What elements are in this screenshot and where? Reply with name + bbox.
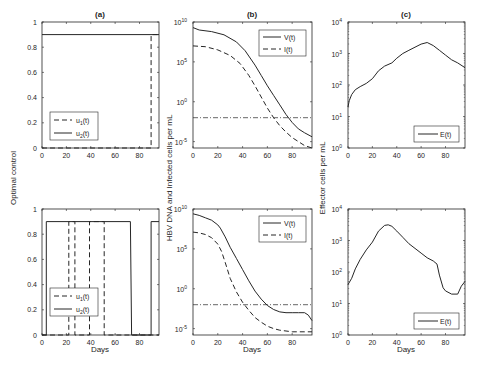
legend-label-E: E(t): [440, 131, 451, 139]
y-tick-label: 103: [331, 49, 342, 58]
x-tick-label: 60: [263, 339, 271, 346]
y-tick-label: 105: [176, 244, 187, 253]
panel-title-a: (a): [95, 10, 105, 19]
x-tick-label: 20: [368, 152, 376, 159]
x-tick-label: 40: [239, 152, 247, 159]
x-tick-label: 20: [214, 339, 222, 346]
y-tick-label: 0.8: [27, 231, 37, 238]
y-tick-label: 100: [176, 284, 187, 293]
xlabel-days-a: Days: [91, 345, 109, 354]
y-tick-label: 100: [176, 97, 187, 106]
ylabel-hbv-dna: HBV DNA and Infected cells per mL: [165, 114, 174, 241]
y-tick-label: 0.8: [27, 44, 37, 51]
y-tick-label: 0: [33, 332, 37, 339]
legend-a-bottom: u1(t) u2(t): [50, 288, 98, 316]
legend-b-top: V(t) I(t): [259, 30, 306, 56]
x-tick-label: 80: [442, 339, 450, 346]
legend-a-top: u1(t) u2(t): [50, 112, 98, 140]
x-tick-label: 80: [136, 339, 144, 346]
ylabel-optimal-control: Optimal control: [9, 151, 18, 205]
x-tick-label: 80: [136, 152, 144, 159]
x-tick-label: 20: [62, 152, 70, 159]
y-tick-label: 105: [176, 57, 187, 66]
y-tick-label: 101: [331, 299, 342, 308]
x-tick-label: 20: [62, 339, 70, 346]
legend-label-V: V(t): [284, 34, 295, 42]
legend-label-V: V(t): [284, 220, 295, 228]
xlabel-days-c: Days: [397, 345, 415, 354]
x-tick-label: 40: [393, 339, 401, 346]
y-tick-label: 1: [33, 19, 37, 26]
x-tick-label: 60: [417, 339, 425, 346]
x-tick-label: 0: [346, 339, 350, 346]
figure: (a) (b) (c) Optimal control HBV DNA and …: [0, 0, 485, 365]
x-tick-label: 60: [263, 152, 271, 159]
y-tick-label: 1: [33, 206, 37, 213]
legend-b-bottom: V(t) I(t): [259, 216, 306, 242]
x-tick-label: 60: [111, 152, 119, 159]
legend-label-E: E(t): [440, 318, 451, 326]
x-tick-label: 0: [191, 152, 195, 159]
x-tick-label: 0: [191, 339, 195, 346]
legend-label-I: I(t): [284, 46, 293, 54]
x-tick-label: 40: [87, 339, 95, 346]
y-tick-label: 1010: [174, 17, 188, 26]
legend-c-top: E(t): [414, 126, 459, 142]
y-tick-label: 0.6: [27, 69, 37, 76]
y-tick-label: 0.6: [27, 256, 37, 263]
y-tick-label: 100: [331, 330, 342, 339]
y-tick-label: 101: [331, 112, 342, 121]
panel-title-c: (c): [401, 10, 411, 19]
y-tick-label: 0.4: [27, 281, 37, 288]
axes-a-bottom: 02040608000.20.40.60.81: [27, 206, 159, 347]
x-tick-label: 80: [288, 152, 296, 159]
y-tick-label: 104: [331, 17, 342, 26]
y-tick-label: 0.2: [27, 306, 37, 313]
legend-c-bottom: E(t): [414, 313, 459, 329]
xlabel-days-b: Days: [243, 345, 261, 354]
y-tick-label: 100: [331, 143, 342, 152]
x-tick-label: 40: [239, 339, 247, 346]
ylabel-effector-cells: Effector cells per mL: [318, 141, 327, 214]
x-tick-label: 80: [288, 339, 296, 346]
y-tick-label: 10-5: [175, 137, 187, 146]
x-tick-label: 40: [87, 152, 95, 159]
x-tick-label: 20: [214, 152, 222, 159]
x-tick-label: 60: [111, 339, 119, 346]
y-tick-label: 104: [331, 204, 342, 213]
x-tick-label: 60: [417, 152, 425, 159]
y-tick-label: 1010: [174, 204, 188, 213]
y-tick-label: 102: [331, 267, 342, 276]
y-tick-label: 10-5: [175, 324, 187, 333]
y-tick-label: 103: [331, 236, 342, 245]
x-tick-label: 20: [368, 339, 376, 346]
legend-label-I: I(t): [284, 232, 293, 240]
y-tick-label: 0: [33, 145, 37, 152]
x-tick-label: 0: [346, 152, 350, 159]
y-tick-label: 0.4: [27, 94, 37, 101]
y-tick-label: 0.2: [27, 119, 37, 126]
x-tick-label: 40: [393, 152, 401, 159]
x-tick-label: 0: [40, 339, 44, 346]
x-tick-label: 0: [40, 152, 44, 159]
panel-title-b: (b): [247, 10, 258, 19]
y-tick-label: 102: [331, 80, 342, 89]
x-tick-label: 80: [442, 152, 450, 159]
